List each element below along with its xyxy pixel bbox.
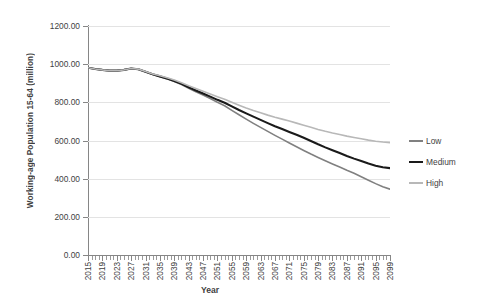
line-chart: Working-age Population 15-64 (million) 0… (0, 0, 478, 305)
y-axis-tick (83, 179, 88, 180)
x-axis-tick-minor (300, 256, 301, 260)
legend-item-high[interactable]: High (409, 172, 475, 193)
y-axis-tick (83, 102, 88, 103)
x-axis-tick-minor (167, 256, 168, 260)
x-axis-tick-label: 2043 (185, 262, 194, 280)
x-axis-tick-label: 2031 (142, 262, 151, 280)
x-axis-tick-minor (279, 256, 280, 260)
x-axis-tick-major (189, 256, 190, 261)
x-axis-tick-minor (325, 256, 326, 260)
x-axis-tick-label: 2099 (386, 262, 395, 280)
x-axis-tick-minor (210, 256, 211, 260)
x-axis-tick-minor (138, 256, 139, 260)
x-axis-tick-minor (225, 256, 226, 260)
x-axis-tick-label: 2039 (170, 262, 179, 280)
x-axis-tick-label: 2035 (156, 262, 165, 280)
x-axis-tick-minor (113, 256, 114, 260)
y-axis-tick-label: 600.00 (54, 136, 80, 146)
y-axis-tick-label: 1200.00 (50, 21, 80, 31)
x-axis-tick-minor (128, 256, 129, 260)
x-axis-tick-minor (379, 256, 380, 260)
x-axis-tick-minor (307, 256, 308, 260)
y-axis-tick (83, 217, 88, 218)
x-axis-tick-minor (120, 256, 121, 260)
x-axis-tick-minor (368, 256, 369, 260)
x-axis-tick-major (390, 256, 391, 261)
series-line-medium (88, 68, 390, 168)
x-axis-tick-minor (156, 256, 157, 260)
legend-item-low[interactable]: Low (409, 130, 475, 151)
x-axis-tick-major (376, 256, 377, 261)
x-axis-tick-label: 2055 (228, 262, 237, 280)
x-axis-tick-major (289, 256, 290, 261)
x-axis-tick-minor (264, 256, 265, 260)
x-axis-tick-minor (196, 256, 197, 260)
x-axis-tick-label: 2067 (271, 262, 280, 280)
x-axis-tick-label: 2079 (314, 262, 323, 280)
x-axis-tick-minor (99, 256, 100, 260)
y-axis-tick-label: 0.00 (64, 250, 80, 260)
legend-swatch-medium (409, 161, 423, 163)
x-axis-tick-minor (350, 256, 351, 260)
x-axis-tick-minor (124, 256, 125, 260)
y-axis-tick-label: 200.00 (54, 212, 80, 222)
x-axis-tick-minor (106, 256, 107, 260)
x-axis-tick-major (160, 256, 161, 261)
x-axis-tick-label: 2083 (328, 262, 337, 280)
x-axis-tick-minor (243, 256, 244, 260)
x-axis-tick-label: 2095 (372, 262, 381, 280)
x-axis-tick-major (304, 256, 305, 261)
y-axis-title-text: Working-age Population 15-64 (million) (26, 53, 35, 208)
x-axis-tick-minor (185, 256, 186, 260)
x-axis-tick-minor (297, 256, 298, 260)
y-axis-tick (83, 64, 88, 65)
x-axis-tick-minor (135, 256, 136, 260)
legend-label: Medium (426, 157, 456, 167)
x-axis-tick-label: 2071 (285, 262, 294, 280)
x-axis-tick-major (88, 256, 89, 261)
x-axis-tick-minor (354, 256, 355, 260)
x-axis-tick-minor (95, 256, 96, 260)
x-axis-tick-major (318, 256, 319, 261)
y-axis-tick-labels: 0.00200.00400.00600.00800.001000.001200.… (36, 0, 84, 305)
x-axis-tick-labels: 2015201920232027203120352039204320472051… (88, 262, 390, 302)
x-axis-tick-minor (329, 256, 330, 260)
x-axis-tick-minor (142, 256, 143, 260)
legend-swatch-low (409, 140, 423, 142)
x-axis-tick-minor (153, 256, 154, 260)
y-axis-tick-label: 1000.00 (50, 59, 80, 69)
x-axis-tick-label: 2063 (257, 262, 266, 280)
plot-area (88, 26, 390, 255)
x-axis-tick-label: 2087 (343, 262, 352, 280)
x-axis-tick-label: 2027 (127, 262, 136, 280)
x-axis-tick-minor (271, 256, 272, 260)
y-axis-tick (83, 255, 88, 256)
x-axis-tick-major (102, 256, 103, 261)
x-axis-tick-minor (250, 256, 251, 260)
x-axis-tick-minor (311, 256, 312, 260)
x-axis-tick-major (246, 256, 247, 261)
legend-item-medium[interactable]: Medium (409, 151, 475, 172)
x-axis-tick-minor (336, 256, 337, 260)
chart-legend: LowMediumHigh (409, 130, 475, 193)
x-axis-tick-minor (257, 256, 258, 260)
x-axis-tick-minor (178, 256, 179, 260)
y-axis-tick-label: 800.00 (54, 97, 80, 107)
x-axis-tick-label: 2059 (242, 262, 251, 280)
x-axis-tick-label: 2015 (84, 262, 93, 280)
x-axis-tick-major (232, 256, 233, 261)
x-axis-tick-label: 2047 (199, 262, 208, 280)
x-axis-tick-major (146, 256, 147, 261)
x-axis-tick-minor (207, 256, 208, 260)
x-axis-tick-minor (372, 256, 373, 260)
x-axis-tick-minor (228, 256, 229, 260)
x-axis-tick-major (347, 256, 348, 261)
x-axis-tick-minor (253, 256, 254, 260)
x-axis-tick-minor (315, 256, 316, 260)
x-axis-tick-label: 2051 (213, 262, 222, 280)
x-axis-tick-minor (214, 256, 215, 260)
x-axis-tick-minor (171, 256, 172, 260)
x-axis-tick-minor (110, 256, 111, 260)
x-axis-tick-minor (383, 256, 384, 260)
x-axis-tick-major (174, 256, 175, 261)
